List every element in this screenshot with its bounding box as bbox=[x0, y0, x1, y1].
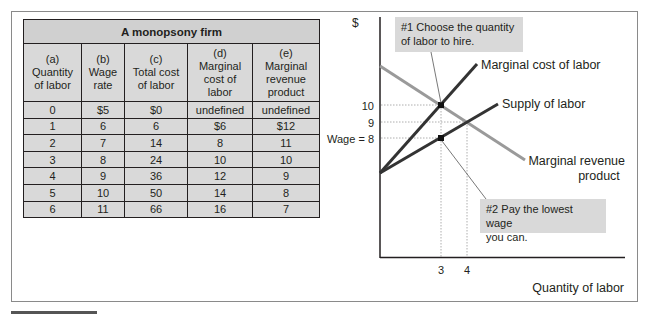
callout1-line2: of labor to hire. bbox=[401, 34, 517, 48]
mrp-label-line1: Marginal revenue bbox=[528, 154, 625, 168]
callout2-pointer bbox=[442, 141, 486, 199]
x-axis-label: Quantity of labor bbox=[532, 281, 624, 295]
guide-lines bbox=[381, 105, 467, 257]
callout1-line1: #1 Choose the quantity bbox=[401, 20, 517, 34]
supply-label: Supply of labor bbox=[502, 97, 585, 111]
monopsony-chart: $ 10 9 Wage = 8 3 4 Quantity of labor Ma… bbox=[0, 0, 649, 315]
x-tick-3: 3 bbox=[438, 264, 444, 276]
y-tick-9: 9 bbox=[368, 117, 374, 129]
callout-pay-lowest-wage: #2 Pay the lowest wage you can. bbox=[480, 199, 606, 233]
callout-choose-quantity: #1 Choose the quantity of labor to hire. bbox=[395, 17, 523, 52]
mrp-curve bbox=[380, 66, 525, 160]
y-tick-10: 10 bbox=[362, 100, 374, 112]
point-wage bbox=[438, 135, 444, 141]
y-tick-8: Wage = 8 bbox=[327, 133, 374, 145]
mrp-label-line2: product bbox=[578, 169, 620, 183]
x-tick-4: 4 bbox=[464, 264, 470, 276]
callout2-line1: #2 Pay the lowest wage bbox=[486, 202, 600, 230]
mc-label: Marginal cost of labor bbox=[481, 58, 601, 72]
y-axis-label: $ bbox=[352, 16, 359, 30]
callout1-pointer bbox=[431, 52, 441, 103]
callout2-line2: you can. bbox=[486, 230, 600, 244]
